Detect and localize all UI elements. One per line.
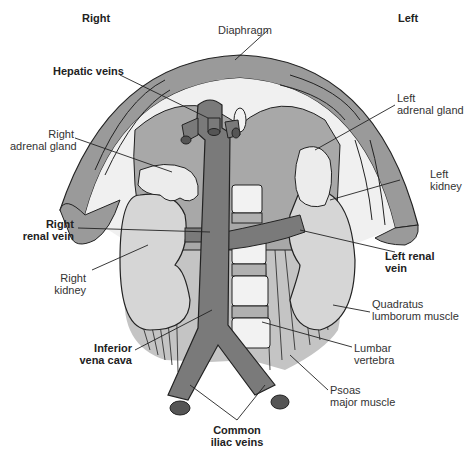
label-quadratus-lumborum: Quadratus lumborum muscle xyxy=(372,298,459,322)
label-left-renal-vein: Left renal vein xyxy=(385,250,435,274)
label-hepatic-veins: Hepatic veins xyxy=(53,65,124,77)
label-right-kidney: Right kidney xyxy=(40,272,86,296)
orientation-left-label: Left xyxy=(398,12,418,24)
label-diaphragm: Diaphragm xyxy=(218,24,272,36)
anatomy-diagram: Right Left Diaphragm Hepatic veins Right… xyxy=(0,0,470,453)
label-lumbar-vertebra: Lumbar vertebra xyxy=(354,342,394,366)
label-psoas-major: Psoas major muscle xyxy=(330,384,395,408)
label-right-renal-vein: Right renal vein xyxy=(10,218,74,242)
left-common-iliac-end xyxy=(271,395,289,409)
label-left-kidney: Left kidney xyxy=(430,168,462,192)
left-adrenal-gland xyxy=(295,147,332,207)
right-common-iliac-end xyxy=(170,401,190,415)
orientation-right-label: Right xyxy=(82,12,110,24)
label-right-adrenal-gland: Right adrenal gland xyxy=(10,128,74,152)
label-common-iliac-veins: Common iliac veins xyxy=(200,424,274,448)
label-left-adrenal-gland: Left adrenal gland xyxy=(397,92,464,116)
label-inferior-vena-cava: Inferior vena cava xyxy=(60,342,132,366)
